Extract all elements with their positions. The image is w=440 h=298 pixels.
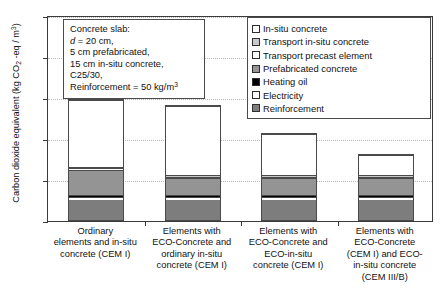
bar-segment [262,200,316,221]
category-label-line: ECO-Concrete and [239,237,337,248]
bar-segment [69,170,123,195]
legend-swatch-icon [252,65,260,73]
y-axis-tick [43,222,48,223]
legend-label: Electricity [263,90,303,101]
stacked-bar[interactable] [165,105,221,221]
bar-segment [359,155,413,175]
category-label-line: elements and in-situ [46,237,144,248]
y-axis-tick [43,17,48,18]
x-axis-category-label: Elements withECO-Concrete andECO-in-situ… [239,226,337,272]
textbox-line-4: 15 cm in-situ concrete, [70,59,199,71]
legend-swatch-icon [252,38,260,46]
legend-label: Transport in-situ concrete [263,36,369,47]
annotation-textbox: Concrete slab: d = 20 cm, 5 cm prefabric… [63,19,205,99]
legend-label: Reinforcement [263,103,324,114]
textbox-line-6: Reinforcement = 50 kg/m3 [70,82,199,94]
bar-segment [69,100,123,167]
category-label-line: ECO-Concrete and [143,237,241,248]
category-label-line: ECO-Concrete [336,237,434,248]
legend-label: Prefabricated concrete [263,63,357,74]
category-label-line: Elements with [239,226,337,237]
bar-segment [166,106,220,175]
category-label-line: concrete (CEM I) [46,249,144,260]
category-label-line: (CEM III/B) [336,272,434,283]
bar-segment [359,178,413,195]
figure-container: Carbon dioxide equivalent (kg CO2 -eq / … [0,0,440,298]
legend-item[interactable]: Prefabricated concrete [252,62,426,75]
y-axis-tick [43,99,48,100]
y-axis-tick [43,140,48,141]
textbox-line-5: C25/30, [70,70,199,82]
category-label-line: (CEM I) and ECO- [336,249,434,260]
x-axis-category-label: Elements withECO-Concrete(CEM I) and ECO… [336,226,434,283]
y-axis-tick [43,58,48,59]
bar-segment [262,178,316,195]
legend-label: Transport precast element [263,50,372,61]
legend-item[interactable]: Transport in-situ concrete [252,35,426,48]
category-label-line: in-situ concrete [336,260,434,271]
bar-segment [262,134,316,175]
stacked-bar[interactable] [261,133,317,221]
legend-item[interactable]: Reinforcement [252,102,426,115]
bar-segment [166,178,220,195]
stacked-bar[interactable] [358,154,414,221]
textbox-line-1: Concrete slab: [70,24,199,36]
textbox-line-2: d = 20 cm, [70,36,199,48]
chart-legend: In-situ concreteTransport in-situ concre… [247,17,431,119]
y-axis-tick [43,181,48,182]
x-axis-category-label: Elements withECO-Concrete andordinary in… [143,226,241,272]
bar-segment [166,200,220,221]
legend-label: Heating oil [263,76,307,87]
category-label-line: concrete (CEM I) [239,260,337,271]
legend-swatch-icon [252,51,260,59]
legend-swatch-icon [252,25,260,33]
legend-swatch-icon [252,78,260,86]
bar-segment [69,200,123,221]
category-label-line: concrete (CEM I) [143,260,241,271]
category-label-line: Elements with [336,226,434,237]
legend-item[interactable]: Transport precast element [252,49,426,62]
y-axis-title: Carbon dioxide equivalent (kg CO2 -eq / … [9,6,23,221]
category-label-line: Elements with [143,226,241,237]
legend-item[interactable]: Heating oil [252,75,426,88]
x-axis-category-label: Ordinaryelements and in-situconcrete (CE… [46,226,144,260]
category-label-line: Ordinary [46,226,144,237]
category-label-line: ordinary in-situ [143,249,241,260]
legend-item[interactable]: In-situ concrete [252,22,426,35]
stacked-bar[interactable] [68,99,124,221]
legend-item[interactable]: Electricity [252,88,426,101]
bar-segment [359,200,413,221]
legend-swatch-icon [252,91,260,99]
legend-swatch-icon [252,104,260,112]
legend-label: In-situ concrete [263,23,327,34]
textbox-line-3: 5 cm prefabricated, [70,47,199,59]
category-label-line: ECO-in-situ [239,249,337,260]
